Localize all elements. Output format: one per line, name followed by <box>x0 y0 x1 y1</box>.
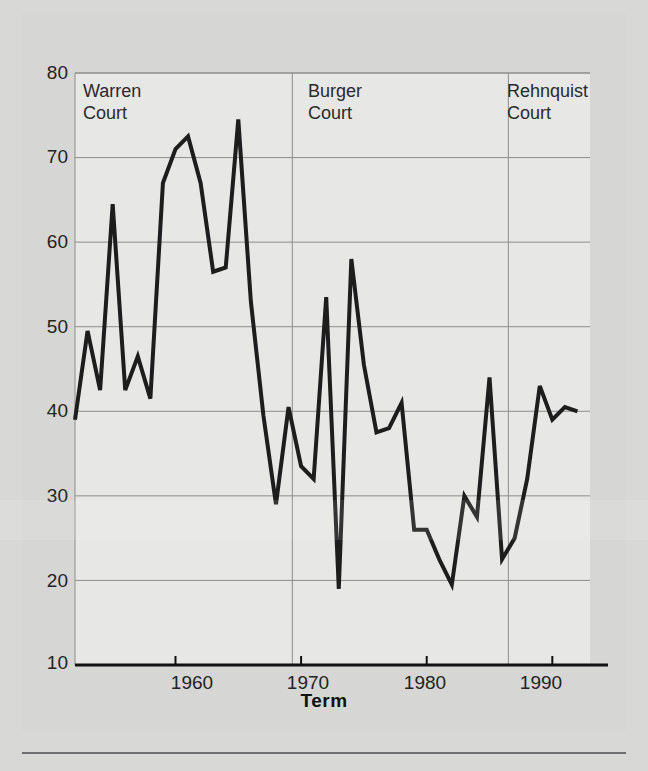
y-tick-label: 80 <box>28 62 68 84</box>
axis-lines <box>75 73 608 665</box>
era-label-warren: Warren Court <box>83 80 141 124</box>
era-label-burger: Burger Court <box>308 80 362 124</box>
gridlines <box>75 73 590 580</box>
y-tick-label: 10 <box>28 652 68 674</box>
bottom-rule <box>22 752 626 754</box>
x-axis-title: Term <box>0 690 648 712</box>
era-label-rehnquist: Rehnquist Court <box>507 80 588 124</box>
data-series-line <box>75 120 577 589</box>
y-tick-label: 30 <box>28 485 68 507</box>
figure-container: 80 70 60 50 40 30 20 10 1960 1970 1980 1… <box>0 0 648 771</box>
y-tick-label: 20 <box>28 570 68 592</box>
era-divider-lines <box>292 73 508 665</box>
y-tick-label: 40 <box>28 400 68 422</box>
y-tick-label: 70 <box>28 146 68 168</box>
caption-strip <box>22 736 626 750</box>
y-tick-label: 50 <box>28 316 68 338</box>
y-tick-label: 60 <box>28 231 68 253</box>
